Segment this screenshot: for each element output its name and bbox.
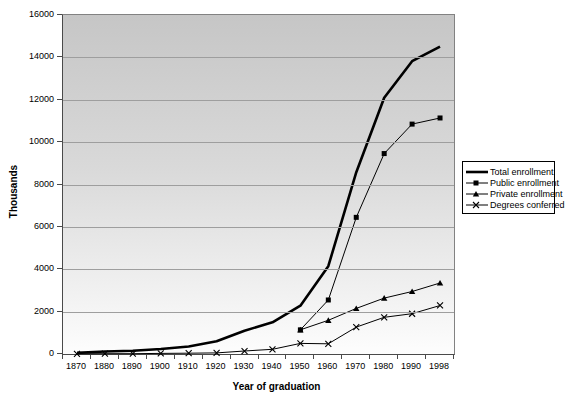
x-tick-mark — [397, 355, 398, 359]
gridline-12000 — [63, 100, 454, 101]
y-axis-title: Thousands — [8, 162, 19, 222]
gridline-4000 — [63, 269, 454, 270]
x-tick-mark — [369, 355, 370, 359]
legend-sample-square-icon — [466, 178, 488, 188]
y-tick-mark — [57, 184, 62, 185]
y-tick-label: 0 — [6, 348, 54, 359]
y-tick-label: 10000 — [6, 136, 54, 147]
x-tick-mark — [118, 355, 119, 359]
chart-canvas: Thousands 020004000600080001000012000140… — [0, 0, 567, 403]
y-tick-label: 4000 — [6, 263, 54, 274]
y-tick-mark — [57, 353, 62, 354]
x-tick-mark — [313, 355, 314, 359]
gridline-8000 — [63, 185, 454, 186]
y-tick-label: 12000 — [6, 94, 54, 105]
x-tick-mark — [146, 355, 147, 359]
x-tick-mark — [258, 355, 259, 359]
legend-sample-triangle-icon — [466, 189, 488, 199]
y-tick-mark — [57, 141, 62, 142]
gridline-6000 — [63, 227, 454, 228]
y-tick-mark — [57, 99, 62, 100]
y-tick-mark — [57, 56, 62, 57]
y-tick-label: 14000 — [6, 51, 54, 62]
gridline-14000 — [63, 57, 454, 58]
y-tick-mark — [57, 311, 62, 312]
x-tick-mark — [285, 355, 286, 359]
y-tick-mark — [57, 226, 62, 227]
plot-area — [62, 14, 455, 355]
x-tick-mark — [425, 355, 426, 359]
legend-sample-x-icon — [466, 200, 488, 210]
y-tick-label: 8000 — [6, 179, 54, 190]
legend-label: Public enrollment — [490, 178, 559, 188]
x-tick-mark — [230, 355, 231, 359]
y-tick-label: 6000 — [6, 221, 54, 232]
gridline-10000 — [63, 142, 454, 143]
legend-item-degrees-conferred: Degrees conferred — [466, 199, 551, 210]
x-tick-mark — [453, 355, 454, 359]
x-tick-mark — [174, 355, 175, 359]
y-tick-label: 2000 — [6, 306, 54, 317]
x-tick-label: 1998 — [419, 361, 459, 372]
legend-item-public-enrollment: Public enrollment — [466, 177, 551, 188]
legend-label: Total enrollment — [490, 167, 554, 177]
legend: Total enrollmentPublic enrollmentPrivate… — [462, 161, 555, 214]
y-tick-mark — [57, 268, 62, 269]
x-tick-mark — [202, 355, 203, 359]
gridline-2000 — [63, 312, 454, 313]
x-axis-title: Year of graduation — [80, 381, 473, 392]
legend-label: Private enrollment — [490, 189, 563, 199]
legend-item-total-enrollment: Total enrollment — [466, 166, 551, 177]
y-tick-mark — [57, 14, 62, 15]
y-tick-label: 16000 — [6, 9, 54, 20]
x-tick-mark — [341, 355, 342, 359]
x-tick-mark — [90, 355, 91, 359]
legend-label: Degrees conferred — [490, 200, 565, 210]
legend-sample-line-icon — [466, 167, 488, 177]
legend-item-private-enrollment: Private enrollment — [466, 188, 551, 199]
x-tick-mark — [62, 355, 63, 359]
